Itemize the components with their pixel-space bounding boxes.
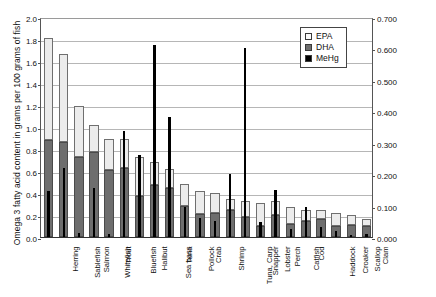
bar-category — [359, 19, 374, 237]
y-tick-label-left: 0.2 — [26, 213, 37, 222]
y-tick-mark-right — [372, 239, 375, 240]
bar-segment-epa — [74, 106, 83, 157]
bar-segment-epa — [104, 139, 113, 170]
bar-category — [102, 19, 117, 237]
x-axis-label: Croaker — [361, 247, 370, 274]
bar-segment-epa — [180, 184, 189, 206]
y-tick-label-right: 0.300 — [377, 140, 397, 149]
bar-segment-epa — [331, 213, 340, 226]
legend-label-dha: DHA — [316, 42, 334, 53]
stacked-bar — [347, 215, 356, 237]
mehg-spike — [93, 188, 95, 237]
mehg-spike — [153, 45, 155, 237]
y-tick-label-right: 0.500 — [377, 77, 397, 86]
bar-category — [223, 19, 238, 237]
y-tick-label-right: 0.600 — [377, 46, 397, 55]
x-axis-label: Shrimp — [237, 247, 246, 271]
bar-category — [132, 19, 147, 237]
bar-category — [71, 19, 86, 237]
mehg-spike — [320, 227, 322, 237]
y-tick-label-left: 0.0 — [26, 235, 37, 244]
bar-category — [56, 19, 71, 237]
bar-category — [208, 19, 223, 237]
mehg-spike — [108, 234, 110, 237]
bar-category — [253, 19, 268, 237]
mehg-spike — [365, 234, 367, 237]
bar-segment-epa — [195, 191, 204, 214]
y-tick-mark-left — [38, 239, 41, 240]
bar-segment-epa — [89, 125, 98, 153]
stacked-bar — [104, 139, 113, 237]
y-tick-label-left: 0.6 — [26, 169, 37, 178]
x-axis-label: Lobster — [283, 247, 292, 272]
bar-segment-dha — [104, 170, 113, 237]
mehg-spike — [184, 207, 186, 237]
x-axis-label: Herring — [71, 247, 80, 272]
omega3-methylmercury-chart: Omega 3 fatty acid content in grams per … — [0, 0, 436, 297]
mehg-spike — [244, 48, 246, 237]
legend-item-mehg: MeHg — [305, 53, 339, 64]
bar-segment-dha — [74, 157, 83, 237]
bar-segment-epa — [347, 215, 356, 225]
bar-category — [238, 19, 253, 237]
mehg-spike — [290, 229, 292, 237]
y-tick-label-left: 0.8 — [26, 147, 37, 156]
y-tick-label-right: 0.400 — [377, 109, 397, 118]
mehg-spike — [47, 191, 49, 237]
mehg-spike — [229, 174, 231, 237]
x-axis-label: Salmon — [102, 247, 111, 273]
x-axis-label: Clam — [382, 247, 391, 265]
y-tick-label-left: 1.4 — [26, 81, 37, 90]
bar-category — [162, 19, 177, 237]
y-tick-label-right: 0.200 — [377, 172, 397, 181]
epa-swatch-icon — [305, 33, 312, 40]
mehg-spike — [123, 131, 125, 237]
bar-category — [268, 19, 283, 237]
mehg-spike — [78, 233, 80, 237]
y-tick-label-right: 0.100 — [377, 203, 397, 212]
x-axis-label: Crab — [214, 247, 223, 263]
bar-segment-epa — [59, 54, 68, 142]
y-tick-label-right: 0.000 — [377, 235, 397, 244]
mehg-spike — [259, 222, 261, 237]
chart-legend: EPA DHA MeHg — [300, 27, 347, 68]
y-tick-label-left: 1.8 — [26, 37, 37, 46]
dha-swatch-icon — [305, 44, 312, 51]
x-axis-label: Halibut — [161, 247, 170, 271]
bar-category — [283, 19, 298, 237]
mehg-spike — [350, 235, 352, 237]
bar-category — [147, 19, 162, 237]
bar-segment-epa — [44, 38, 53, 140]
bar-segment-epa — [286, 207, 295, 224]
x-axis-label: Trout — [124, 247, 133, 264]
mehg-swatch-icon — [305, 55, 312, 62]
x-axis-label: Perch — [293, 247, 302, 267]
bar-category — [177, 19, 192, 237]
stacked-bar — [74, 106, 83, 237]
y-tick-label-left: 1.6 — [26, 59, 37, 68]
bar-segment-epa — [316, 210, 325, 220]
bar-segment-epa — [362, 219, 371, 226]
legend-label-epa: EPA — [316, 31, 332, 42]
bar-segment-epa — [210, 193, 219, 213]
legend-item-epa: EPA — [305, 31, 339, 42]
x-axis-label: Snapper — [272, 247, 281, 276]
mehg-spike — [63, 168, 65, 237]
mehg-spike — [335, 231, 337, 237]
x-axis-label: Sablefish — [92, 247, 101, 278]
x-axis-label: Tuna — [184, 247, 193, 264]
x-axis-label: Bluefish — [149, 247, 158, 274]
mehg-spike — [274, 190, 276, 237]
mehg-spike — [168, 117, 170, 237]
mehg-spike — [199, 218, 201, 237]
mehg-spike — [214, 221, 216, 237]
y-axis-title-left: Omega 3 fatty acid content in grams per … — [12, 20, 22, 246]
bar-category — [41, 19, 56, 237]
bar-category — [117, 19, 132, 237]
mehg-spike — [305, 207, 307, 237]
x-axis-label: Cod — [317, 247, 326, 261]
legend-item-dha: DHA — [305, 42, 339, 53]
bar-category — [192, 19, 207, 237]
y-tick-label-left: 2.0 — [26, 15, 37, 24]
y-tick-label-right: 0.700 — [377, 15, 397, 24]
